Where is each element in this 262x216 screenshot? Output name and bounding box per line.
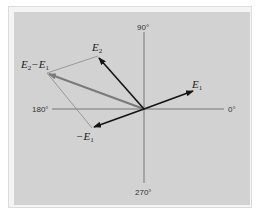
vector-e2-minus-e1 bbox=[49, 74, 144, 109]
label-e2: E2 bbox=[91, 41, 103, 55]
phasor-diagram: 90° 0° 180° 270° E2 E1 −E1 E2−E1 bbox=[0, 0, 262, 216]
label-neg-e1: −E1 bbox=[76, 130, 94, 144]
label-e1: E1 bbox=[191, 78, 203, 92]
label-0-deg: 0° bbox=[228, 105, 236, 114]
label-e2-minus-e1: E2−E1 bbox=[20, 58, 49, 72]
vector-neg-e1 bbox=[94, 109, 144, 127]
construction-line-e2-to-diff bbox=[47, 56, 98, 73]
vector-e1 bbox=[144, 91, 193, 109]
label-270-deg: 270° bbox=[135, 188, 152, 197]
label-90-deg: 90° bbox=[137, 23, 149, 32]
label-180-deg: 180° bbox=[32, 105, 49, 114]
